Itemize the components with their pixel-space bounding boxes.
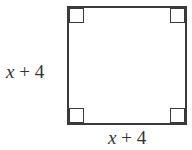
square-shape: [67, 6, 187, 125]
right-angle-marker-top-left: [69, 8, 84, 23]
right-angle-marker-top-right: [170, 8, 185, 23]
left-side-expression: + 4: [14, 61, 44, 82]
left-side-label: x + 4: [6, 62, 44, 81]
right-angle-marker-bottom-right: [170, 108, 185, 123]
bottom-side-label: x + 4: [108, 128, 146, 147]
right-angle-marker-bottom-left: [69, 108, 84, 123]
bottom-side-expression: + 4: [116, 127, 146, 148]
